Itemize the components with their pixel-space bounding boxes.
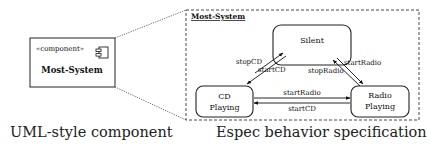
- label-startRadio-silent: startRadio: [344, 59, 381, 67]
- state-radio-label-1: Radio: [368, 91, 392, 100]
- label-stopCD: stopCD: [236, 58, 262, 66]
- label-startCD-silent: startCD: [258, 66, 286, 74]
- label-stopRadio: stopRadio: [308, 67, 344, 75]
- caption-left: UML-style component: [10, 124, 173, 140]
- state-cd-label-1: CD: [218, 92, 231, 101]
- uml-component: «component» Most-System: [30, 38, 115, 87]
- zoom-line-bottom: [115, 87, 186, 120]
- state-cd-playing: CD Playing: [196, 86, 253, 117]
- state-silent: Silent: [273, 25, 351, 65]
- state-radio-label-2: Playing: [365, 102, 395, 111]
- component-stereotype: «component»: [36, 45, 84, 53]
- component-name: Most-System: [41, 65, 103, 75]
- state-silent-label: Silent: [300, 36, 324, 45]
- zoom-line-top: [115, 10, 186, 38]
- transition-cd-radio: startRadio startCD: [254, 89, 350, 113]
- state-radio-playing: Radio Playing: [351, 86, 409, 117]
- frame-title: Most-System: [191, 12, 245, 21]
- label-startCD-radio: startCD: [288, 105, 316, 113]
- label-startRadio-cd: startRadio: [283, 89, 320, 97]
- state-cd-label-2: Playing: [209, 103, 239, 112]
- caption-right: Espec behavior specification: [216, 124, 427, 140]
